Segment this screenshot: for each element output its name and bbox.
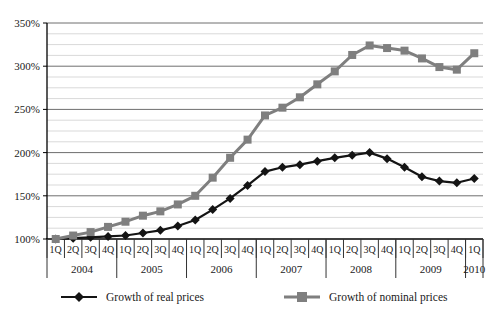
data-point-marker (296, 93, 304, 101)
quarter-label: 2Q (276, 244, 289, 255)
data-point-marker (330, 153, 339, 162)
quarter-label: 1Q (398, 244, 411, 255)
legend-item-real-prices: Growth of real prices (60, 291, 204, 303)
year-label: 2008 (350, 263, 373, 275)
quarter-label: 1Q (119, 244, 132, 255)
data-point-marker (87, 228, 95, 236)
quarter-label: 1Q (189, 244, 202, 255)
quarter-label: 4Q (381, 244, 394, 255)
data-point-marker (209, 174, 217, 182)
y-tick-label: 250% (14, 103, 40, 115)
x-axis-quarter-row: 1Q2Q3Q4Q1Q2Q3Q4Q1Q2Q3Q4Q1Q2Q3Q4Q1Q2Q3Q4Q… (47, 239, 483, 258)
minor-gridlines (47, 34, 483, 228)
quarter-label: 3Q (224, 244, 237, 255)
data-point-marker (383, 44, 391, 52)
data-point-marker (348, 51, 356, 59)
data-point-marker (401, 47, 409, 55)
quarter-label: 4Q (311, 244, 324, 255)
data-point-marker (295, 160, 304, 169)
quarter-label: 4Q (172, 244, 185, 255)
data-point-marker (417, 172, 426, 181)
data-point-marker (366, 41, 374, 49)
chart-legend: Growth of real prices Growth of nominal … (0, 291, 492, 317)
quarter-label: 2Q (207, 244, 220, 255)
chart: 100%150%200%250%300%350%1Q2Q3Q4Q1Q2Q3Q4Q… (0, 0, 492, 292)
quarter-label: 2Q (346, 244, 359, 255)
data-point-marker (400, 163, 409, 172)
data-point-marker (278, 163, 287, 172)
data-point-marker (348, 151, 357, 160)
data-point-marker (435, 63, 443, 71)
chart-page: 100%150%200%250%300%350%1Q2Q3Q4Q1Q2Q3Q4Q… (0, 0, 492, 320)
data-point-marker (470, 174, 479, 183)
quarter-label: 1Q (50, 244, 63, 255)
y-axis-labels: 100%150%200%250%300%350% (14, 17, 40, 245)
data-point-marker (278, 104, 286, 112)
quarter-label: 4Q (102, 244, 115, 255)
quarter-label: 2Q (416, 244, 429, 255)
data-point-marker (104, 223, 112, 231)
data-point-marker (69, 232, 77, 240)
y-tick-label: 100% (14, 233, 40, 245)
data-point-marker (261, 111, 269, 119)
data-point-marker (138, 228, 147, 237)
data-point-marker (226, 154, 234, 162)
data-point-marker (156, 226, 165, 235)
data-point-marker (365, 148, 374, 157)
data-point-marker (418, 54, 426, 62)
legend-item-nominal-prices: Growth of nominal prices (283, 291, 448, 303)
legend-label-nominal-prices: Growth of nominal prices (329, 291, 448, 303)
data-point-marker (174, 200, 182, 208)
data-point-marker (453, 66, 461, 74)
quarter-label: 1Q (259, 244, 272, 255)
quarter-label: 3Q (364, 244, 377, 255)
data-point-marker (121, 218, 129, 226)
legend-marker-diamond-icon (60, 291, 98, 303)
quarter-label: 1Q (468, 244, 481, 255)
data-point-marker (470, 49, 478, 57)
data-point-marker (173, 222, 182, 231)
quarter-label: 3Q (84, 244, 97, 255)
legend-marker-square-icon (283, 291, 321, 303)
y-tick-label: 300% (14, 60, 40, 72)
year-label: 2006 (210, 263, 233, 275)
quarter-label: 2Q (67, 244, 80, 255)
chart-svg: 100%150%200%250%300%350%1Q2Q3Q4Q1Q2Q3Q4Q… (0, 0, 492, 292)
year-label: 2005 (141, 263, 164, 275)
data-point-marker (139, 212, 147, 220)
y-tick-label: 350% (14, 17, 40, 29)
year-label: 2007 (280, 263, 303, 275)
quarter-label: 3Q (433, 244, 446, 255)
y-tick-label: 150% (14, 190, 40, 202)
data-point-marker (313, 157, 322, 166)
y-tick-label: 200% (14, 147, 40, 159)
data-point-marker (313, 80, 321, 88)
data-point-marker (452, 178, 461, 187)
year-label: 2009 (420, 263, 443, 275)
data-point-marker (244, 136, 252, 144)
legend-label-real-prices: Growth of real prices (106, 291, 204, 303)
quarter-label: 1Q (329, 244, 342, 255)
data-point-marker (191, 192, 199, 200)
data-point-marker (156, 207, 164, 215)
data-point-marker (331, 67, 339, 75)
year-label: 2010 (463, 263, 486, 275)
quarter-label: 4Q (451, 244, 464, 255)
quarter-label: 2Q (137, 244, 150, 255)
quarter-label: 4Q (241, 244, 254, 255)
quarter-label: 3Q (294, 244, 307, 255)
quarter-label: 3Q (154, 244, 167, 255)
year-label: 2004 (71, 263, 94, 275)
data-point-marker (435, 177, 444, 186)
data-point-marker (383, 154, 392, 163)
data-point-marker (52, 235, 60, 243)
